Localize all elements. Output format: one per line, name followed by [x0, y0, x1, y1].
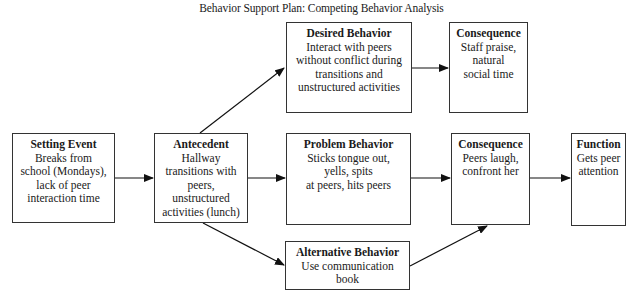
desired-consequence-box: Consequence Staff praise, natural social…: [449, 22, 528, 113]
alternative-behavior-heading: Alternative Behavior: [286, 246, 409, 260]
alternative-behavior-text: Use communication book: [286, 260, 409, 287]
arrow-antecedent-to-alternative: [203, 223, 284, 265]
arrow-alternative-to-consequence: [410, 226, 487, 266]
problem-consequence-text: Peers laugh, confront her: [452, 152, 529, 179]
arrow-antecedent-to-desired: [200, 68, 284, 133]
problem-behavior-text: Sticks tongue out, yells, spits at peers…: [287, 152, 410, 193]
alternative-behavior-box: Alternative Behavior Use communication b…: [285, 241, 410, 290]
problem-consequence-heading: Consequence: [452, 138, 529, 152]
antecedent-box: Antecedent Hallway transitions with peer…: [154, 133, 248, 223]
antecedent-heading: Antecedent: [155, 138, 247, 152]
problem-behavior-heading: Problem Behavior: [287, 138, 410, 152]
function-text: Gets peer attention: [572, 152, 625, 179]
problem-consequence-box: Consequence Peers laugh, confront her: [451, 133, 530, 225]
desired-behavior-box: Desired Behavior Interact with peers wit…: [286, 22, 412, 113]
setting-event-box: Setting Event Breaks from school (Monday…: [12, 133, 115, 223]
function-heading: Function: [572, 138, 625, 152]
antecedent-text: Hallway transitions with peers, unstruct…: [155, 152, 247, 220]
setting-event-text: Breaks from school (Mondays), lack of pe…: [13, 152, 114, 206]
setting-event-heading: Setting Event: [13, 138, 114, 152]
desired-behavior-text: Interact with peers without conflict dur…: [287, 41, 411, 95]
problem-behavior-box: Problem Behavior Sticks tongue out, yell…: [286, 133, 411, 225]
function-box: Function Gets peer attention: [571, 133, 626, 226]
desired-consequence-heading: Consequence: [450, 27, 527, 41]
desired-behavior-heading: Desired Behavior: [287, 27, 411, 41]
desired-consequence-text: Staff praise, natural social time: [450, 41, 527, 82]
